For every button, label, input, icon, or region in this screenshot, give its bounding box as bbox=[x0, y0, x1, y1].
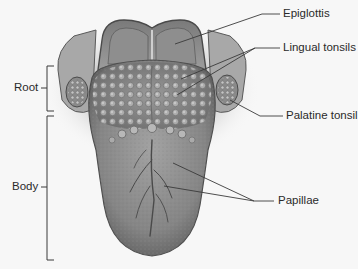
palatine-tonsil-right bbox=[216, 75, 238, 105]
label-lingual-tonsils: Lingual tonsils bbox=[283, 42, 356, 54]
label-papillae: Papillae bbox=[278, 195, 319, 207]
body-bracket bbox=[41, 116, 54, 260]
label-epiglottis: Epiglottis bbox=[283, 8, 330, 20]
label-body: Body bbox=[12, 181, 38, 193]
label-palatine-tonsil: Palatine tonsil bbox=[286, 110, 358, 122]
label-root: Root bbox=[14, 82, 38, 94]
palatine-tonsil-left bbox=[66, 77, 88, 107]
